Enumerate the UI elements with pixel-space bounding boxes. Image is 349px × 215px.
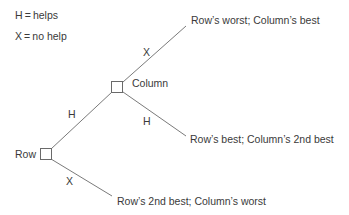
outcome-middle: Row’s best; Column’s 2nd best (190, 133, 334, 145)
outcome-bottom: Row’s 2nd best; Column’s worst (117, 195, 266, 207)
column-node-label: Column (132, 77, 168, 89)
legend-helps: H = helps (15, 9, 58, 21)
outcome-top: Row’s worst; Column’s best (191, 14, 320, 26)
edge-label-row-column: H (68, 108, 76, 120)
row-node (41, 149, 52, 160)
edge-label-column-top: X (143, 46, 150, 58)
edge-label-row-outcome: X (66, 175, 73, 187)
edge-column-to-middle (123, 92, 186, 136)
column-node (112, 82, 123, 93)
edge-column-to-top (123, 26, 186, 82)
edge-row-to-outcome (51, 159, 112, 196)
edge-row-to-column (51, 92, 112, 149)
legend-no-help: X = no help (15, 30, 67, 42)
row-node-label: Row (15, 148, 36, 160)
edge-label-column-bottom: H (143, 115, 151, 127)
